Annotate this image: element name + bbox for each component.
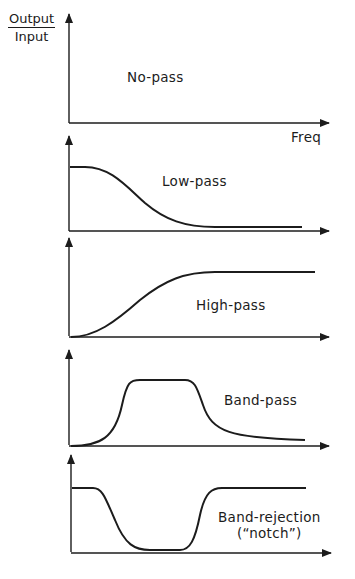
panel-label-high-pass: High-pass [196, 297, 266, 313]
panel-high-pass-axes [69, 238, 329, 337]
panel-label-band-pass: Band-pass [224, 392, 297, 408]
panel-label-no-pass: No-pass [127, 69, 184, 85]
band-rejection-label-line2: (“notch”) [218, 525, 321, 541]
filter-response-diagram: Output Input Freq No-pass Low-pass High-… [0, 0, 355, 579]
y-axis-label: Output Input [8, 10, 55, 45]
panel-no-pass-axes [69, 14, 329, 123]
band-pass-curve [71, 380, 305, 446]
panel-label-low-pass: Low-pass [162, 173, 227, 189]
x-axis-label: Freq [291, 129, 321, 145]
filter-response-svg [0, 0, 355, 579]
panel-label-band-rejection: Band-rejection (“notch”) [218, 509, 321, 541]
high-pass-curve [71, 272, 315, 337]
y-axis-label-numerator: Output [8, 10, 55, 28]
band-rejection-label-line1: Band-rejection [218, 509, 321, 525]
y-axis-label-denominator: Input [8, 28, 55, 45]
